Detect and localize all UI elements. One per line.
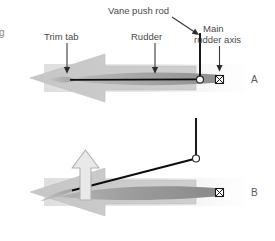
main-rudder-axis-marker-a <box>216 76 224 84</box>
label-main-rudder-axis-line1: Main <box>203 23 224 34</box>
leader-vane-push-rod <box>172 17 196 33</box>
figure-canvas: g <box>0 0 275 241</box>
label-trim-tab: Trim tab <box>44 31 78 42</box>
panel-letter-b: B <box>251 187 258 198</box>
panel-b: B <box>30 118 258 216</box>
label-vane-push-rod: Vane push rod <box>108 5 169 16</box>
label-rudder: Rudder <box>131 31 162 42</box>
diagram-svg: g <box>0 0 275 241</box>
pivot-joint-b <box>193 155 200 162</box>
pivot-joint-a <box>197 76 204 83</box>
panel-letter-a: A <box>251 74 258 85</box>
main-rudder-axis-marker-b <box>216 189 224 197</box>
label-main-rudder-axis-line2: rudder axis <box>194 34 241 45</box>
cutoff-text-fragment: g <box>0 27 5 38</box>
linkage-rod-a <box>70 79 200 80</box>
panel-a: Vane push rod Trim tab Rudder Main rudde… <box>30 5 258 102</box>
